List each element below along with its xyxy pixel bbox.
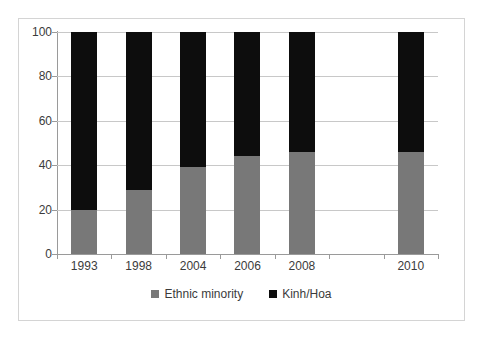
bar-slot[interactable]	[166, 32, 220, 254]
bar-segment-kinh-hoa[interactable]	[180, 32, 206, 167]
bar-slot[interactable]	[384, 32, 438, 254]
square-swatch-black-icon	[269, 290, 277, 298]
y-tick-0	[52, 254, 57, 255]
square-swatch-gray-icon	[151, 290, 159, 298]
y-tick-100	[52, 32, 57, 33]
legend-item[interactable]: Ethnic minority	[151, 288, 243, 300]
x-axis-label: 1998	[111, 260, 165, 272]
x-tick	[384, 254, 385, 259]
y-tick-80	[52, 76, 57, 77]
bar-segment-ethnic-minority[interactable]	[289, 152, 315, 254]
bar-slot[interactable]	[111, 32, 165, 254]
bar-segment-kinh-hoa[interactable]	[234, 32, 260, 156]
legend-label: Kinh/Hoa	[282, 288, 331, 300]
x-axis-label: 2006	[220, 260, 274, 272]
x-tick-origin	[57, 254, 58, 259]
x-tick	[111, 254, 112, 259]
x-tick	[329, 254, 330, 259]
y-axis-label: 80	[20, 70, 52, 82]
x-tick	[438, 254, 439, 259]
chart-legend: Ethnic minorityKinh/Hoa	[0, 288, 483, 300]
y-axis-label: 20	[20, 204, 52, 216]
y-axis-label: 60	[20, 115, 52, 127]
y-tick-20	[52, 210, 57, 211]
y-axis-label: 40	[20, 159, 52, 171]
bar-segment-ethnic-minority[interactable]	[234, 156, 260, 254]
y-tick-60	[52, 121, 57, 122]
plot-area	[57, 32, 438, 254]
x-tick	[275, 254, 276, 259]
chart-figure: 020406080100 199319982004200620082010 Et…	[0, 0, 483, 346]
x-axis-label: 1993	[57, 260, 111, 272]
bar-segment-kinh-hoa[interactable]	[126, 32, 152, 190]
legend-item[interactable]: Kinh/Hoa	[269, 288, 331, 300]
y-axis-label: 0	[20, 248, 52, 260]
gridline-0	[57, 254, 438, 255]
bar-slot[interactable]	[57, 32, 111, 254]
x-axis-label: 2010	[384, 260, 438, 272]
x-axis-label: 2004	[166, 260, 220, 272]
x-axis-label: 2008	[275, 260, 329, 272]
legend-label: Ethnic minority	[164, 288, 243, 300]
bar-segment-ethnic-minority[interactable]	[126, 190, 152, 254]
x-tick	[166, 254, 167, 259]
bar-segment-kinh-hoa[interactable]	[289, 32, 315, 152]
y-tick-40	[52, 165, 57, 166]
bar-segment-kinh-hoa[interactable]	[71, 32, 97, 210]
bar-segment-ethnic-minority[interactable]	[398, 152, 424, 254]
bar-slot[interactable]	[329, 32, 383, 254]
bar-segment-ethnic-minority[interactable]	[180, 167, 206, 254]
y-axis-label: 100	[20, 26, 52, 38]
x-tick	[220, 254, 221, 259]
bar-segment-kinh-hoa[interactable]	[398, 32, 424, 152]
bar-slot[interactable]	[220, 32, 274, 254]
bar-slot[interactable]	[275, 32, 329, 254]
bar-segment-ethnic-minority[interactable]	[71, 210, 97, 254]
